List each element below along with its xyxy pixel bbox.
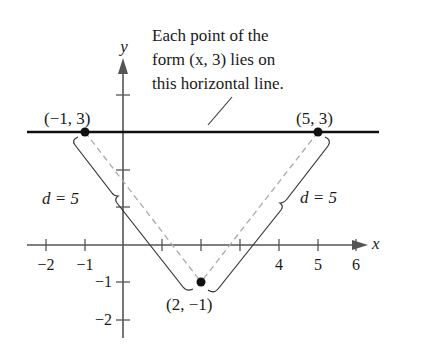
x-axis-arrow-icon — [352, 240, 368, 250]
x-tick-label: 5 — [314, 256, 322, 273]
y-tick-label: −2 — [95, 311, 112, 328]
point-5-3 — [314, 128, 323, 137]
coordinate-diagram: −2 −1 4 5 6 x −1 −2 y — [0, 0, 438, 355]
distance-label-left: d = 5 — [42, 189, 79, 208]
annotation-line: form (x, 3) lies on — [152, 48, 284, 72]
point-neg1-3 — [81, 128, 90, 137]
annotation-line: Each point of the — [152, 24, 284, 48]
point-label: (−1, 3) — [44, 109, 90, 128]
y-axis: −1 −2 y — [95, 37, 130, 338]
annotation-text: Each point of the form (x, 3) lies on th… — [152, 24, 284, 96]
x-tick-label: 6 — [352, 256, 360, 273]
y-axis-arrow-icon — [118, 58, 128, 74]
y-axis-label: y — [118, 37, 128, 56]
point-2-neg1 — [197, 278, 206, 287]
annotation-line: this horizontal line. — [152, 72, 284, 96]
point-label: (5, 3) — [296, 109, 333, 128]
x-tick-label: 4 — [275, 256, 283, 273]
x-axis: −2 −1 4 5 6 x — [27, 234, 380, 273]
right-distance-brace — [208, 137, 329, 292]
distance-label-right: d = 5 — [300, 188, 337, 207]
x-axis-label: x — [371, 234, 380, 253]
annotation-pointer — [208, 97, 232, 125]
point-label: (2, −1) — [166, 295, 212, 314]
y-tick-label: −1 — [95, 273, 112, 290]
x-tick-label: −2 — [37, 256, 54, 273]
x-tick-label: −1 — [76, 256, 93, 273]
